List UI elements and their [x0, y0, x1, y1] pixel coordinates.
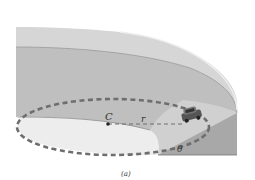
center-point	[106, 122, 110, 126]
banked-curve-diagram	[0, 0, 255, 180]
center-label: C	[105, 112, 113, 122]
angle-label: θ	[177, 145, 182, 154]
figure-caption: (a)	[121, 171, 131, 178]
radius-label: r	[141, 115, 145, 124]
